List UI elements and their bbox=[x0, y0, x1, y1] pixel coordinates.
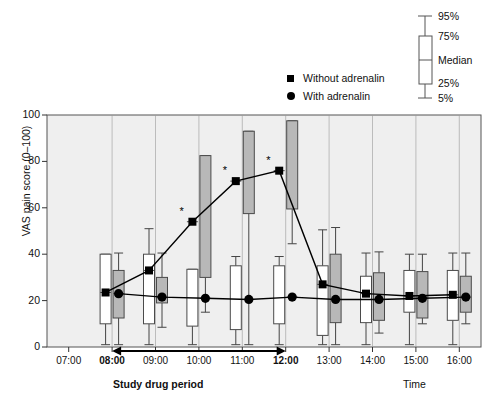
x-tick-label-1200: 12:00 bbox=[265, 355, 307, 366]
y-tick-label-100: 100 bbox=[14, 108, 40, 120]
boxplot-with-11:00 bbox=[243, 131, 254, 213]
square-marker-icon bbox=[275, 167, 283, 175]
circle-marker-icon bbox=[461, 293, 470, 302]
x-tick-label-0800: 08:00 bbox=[91, 355, 133, 366]
circle-marker-icon bbox=[331, 295, 340, 304]
x-tick-label-1000: 10:00 bbox=[178, 355, 220, 366]
boxplot-without-09:00 bbox=[144, 254, 155, 324]
x-tick-label-1300: 13:00 bbox=[308, 355, 350, 366]
significance-asterisk: * bbox=[179, 205, 184, 217]
chart-figure: 95% 75% Median 25% 5% Without adrenalin … bbox=[0, 0, 493, 406]
x-axis-title: Time bbox=[403, 378, 426, 390]
boxplot-without-13:00 bbox=[317, 266, 328, 336]
boxplot-without-11:00 bbox=[230, 266, 241, 330]
significance-asterisk: * bbox=[266, 154, 271, 166]
square-marker-icon bbox=[362, 290, 370, 298]
square-marker-icon bbox=[102, 288, 110, 296]
circle-marker-icon bbox=[374, 295, 383, 304]
plot-area: *** bbox=[0, 0, 493, 406]
y-tick-label-40: 40 bbox=[14, 247, 40, 259]
square-marker-icon bbox=[232, 177, 240, 185]
significance-asterisk: * bbox=[223, 164, 228, 176]
boxplot-with-10:00 bbox=[200, 156, 211, 278]
boxplot-without-12:00 bbox=[274, 266, 285, 324]
study-drug-period-caption: Study drug period bbox=[113, 378, 203, 390]
circle-marker-icon bbox=[157, 293, 166, 302]
x-tick-label-1600: 16:00 bbox=[438, 355, 480, 366]
square-marker-icon bbox=[319, 280, 327, 288]
y-tick-label-20: 20 bbox=[14, 294, 40, 306]
circle-marker-icon bbox=[418, 294, 427, 303]
x-tick-label-1100: 11:00 bbox=[221, 355, 263, 366]
square-marker-icon bbox=[145, 266, 153, 274]
y-tick-label-0: 0 bbox=[14, 340, 40, 352]
y-tick-label-80: 80 bbox=[14, 154, 40, 166]
x-tick-label-1500: 15:00 bbox=[395, 355, 437, 366]
x-tick-label-1400: 14:00 bbox=[352, 355, 394, 366]
x-tick-label-0700: 07:00 bbox=[48, 355, 90, 366]
boxplot-without-15:00 bbox=[404, 270, 415, 312]
circle-marker-icon bbox=[244, 295, 253, 304]
circle-marker-icon bbox=[288, 293, 297, 302]
x-tick-label-0900: 09:00 bbox=[135, 355, 177, 366]
circle-marker-icon bbox=[114, 289, 123, 298]
y-tick-label-60: 60 bbox=[14, 201, 40, 213]
square-marker-icon bbox=[188, 218, 196, 226]
circle-marker-icon bbox=[201, 294, 210, 303]
